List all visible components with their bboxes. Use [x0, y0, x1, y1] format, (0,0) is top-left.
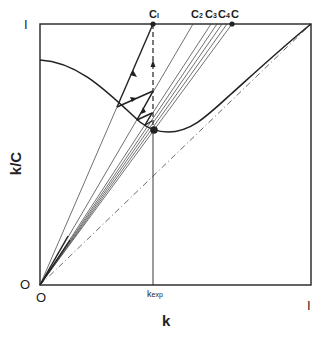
point-c1: [150, 21, 155, 26]
x-tick-one: I: [307, 298, 311, 313]
fixed-point: [150, 126, 158, 134]
point-c: [229, 21, 234, 26]
diagram-canvas: [0, 0, 325, 338]
y-tick-zero: O: [20, 277, 30, 292]
label-c3: C3: [205, 8, 217, 20]
label-c4: C4: [218, 8, 230, 20]
label-c1: CI: [149, 8, 159, 20]
diagonal-line: [40, 24, 311, 285]
y-tick-one: I: [24, 17, 28, 32]
figure: CI C2 C3 C4 C I O k/C O kexp I k: [0, 0, 325, 338]
x-axis-label: k: [162, 312, 170, 329]
x-tick-kexp: kexp: [147, 289, 163, 299]
label-c2: C2: [191, 8, 203, 20]
x-tick-zero: O: [36, 290, 46, 305]
arrow-up-icon: [151, 60, 156, 67]
y-axis-label: k/C: [7, 152, 24, 175]
label-c: C: [231, 8, 239, 20]
